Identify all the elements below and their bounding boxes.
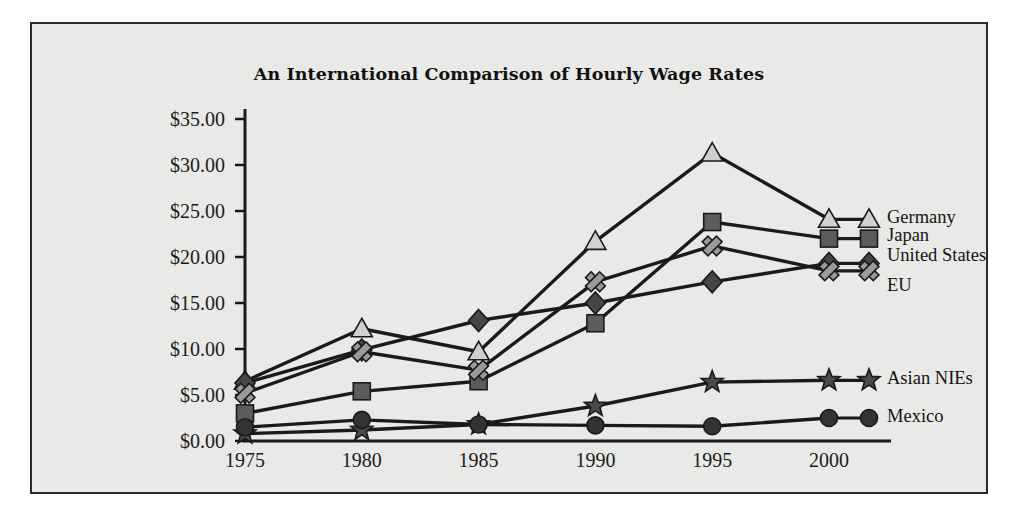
- legend-marker-japan: [861, 230, 878, 247]
- series-line-germany: [245, 153, 829, 381]
- legend-marker-asian-nies: [858, 369, 880, 390]
- data-point: [587, 315, 604, 332]
- data-point: [702, 271, 722, 293]
- data-point: [585, 231, 606, 250]
- legend-label-asian-nies: Asian NIEs: [887, 368, 973, 389]
- data-point: [701, 371, 723, 392]
- data-point: [821, 410, 838, 427]
- series-line-united-states: [245, 263, 829, 383]
- x-tick-label: 1995: [692, 449, 732, 472]
- data-point: [585, 292, 605, 314]
- data-point: [704, 214, 721, 231]
- chart-series-lines: [245, 153, 869, 434]
- data-point: [821, 230, 838, 247]
- x-tick-label: 1980: [342, 449, 382, 472]
- data-point: [584, 395, 606, 416]
- data-point: [587, 417, 604, 434]
- data-point: [702, 143, 723, 161]
- x-tick-label: 1990: [575, 449, 615, 472]
- y-tick-label: $35.00: [133, 108, 225, 131]
- x-tick-label: 1985: [459, 449, 499, 472]
- data-point: [353, 383, 370, 400]
- x-tick-label: 2000: [809, 449, 849, 472]
- chart-figure-frame: An International Comparison of Hourly Wa…: [30, 22, 988, 494]
- data-point: [351, 318, 372, 337]
- chart-plot-area: $0.00$5.00$10.00$15.00$20.00$25.00$30.00…: [32, 24, 990, 492]
- series-markers-united-states: [235, 252, 839, 394]
- x-tick-label: 1975: [225, 449, 265, 472]
- legend-label-japan: Japan: [887, 225, 929, 246]
- series-markers-japan: [237, 214, 838, 422]
- series-line-mexico: [245, 418, 829, 427]
- y-tick-label: $10.00: [133, 338, 225, 361]
- y-tick-label: $20.00: [133, 246, 225, 269]
- legend-marker-mexico: [861, 410, 878, 427]
- chart-axes: [243, 109, 891, 441]
- data-point: [353, 411, 370, 428]
- y-tick-label: $25.00: [133, 200, 225, 223]
- data-point: [704, 418, 721, 435]
- y-tick-label: $15.00: [133, 292, 225, 315]
- data-point: [469, 309, 489, 331]
- legend-label-eu: EU: [887, 275, 912, 296]
- legend-label-mexico: Mexico: [887, 406, 944, 427]
- y-tick-label: $30.00: [133, 154, 225, 177]
- series-line-eu: [245, 246, 829, 393]
- data-point: [818, 369, 840, 390]
- legend-label-united-states: United States: [887, 245, 986, 266]
- y-tick-label: $5.00: [133, 384, 225, 407]
- y-tick-label: $0.00: [133, 430, 225, 453]
- series-markers-eu: [235, 236, 839, 403]
- data-point: [470, 416, 487, 433]
- data-point: [586, 272, 606, 292]
- data-point: [237, 419, 254, 436]
